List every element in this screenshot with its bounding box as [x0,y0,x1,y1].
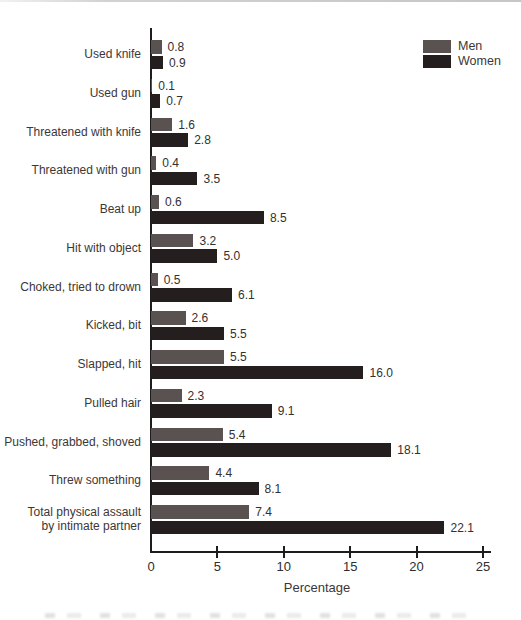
bar-men [151,466,209,480]
category-label: Threw something [0,465,141,496]
legend-item-men: Men [423,40,501,53]
bar-men [151,350,224,364]
bar-men [151,505,249,519]
x-axis-tick-label: 5 [197,559,237,574]
bar-men [151,273,158,287]
category-label: Kicked, bit [0,310,141,341]
legend-swatch-women [423,55,451,68]
bar-men [151,428,223,442]
value-label: 5.5 [230,350,247,364]
legend: Men Women [423,40,501,68]
value-label: 6.1 [238,288,255,302]
bar-women [151,521,444,535]
value-label: 1.6 [178,118,195,132]
x-axis-tick [216,546,218,558]
category-label: Hit with object [0,232,141,263]
x-axis-tick-label: 10 [264,559,304,574]
bar-men [151,40,162,54]
x-axis-line [150,551,491,553]
bar-men [151,195,159,209]
value-label: 2.8 [194,133,211,147]
bar-women [151,249,217,263]
value-label: 0.5 [164,273,181,287]
legend-label-women: Women [458,55,501,68]
category-label: Slapped, hit [0,349,141,380]
value-label: 9.1 [278,404,295,418]
x-axis-tick-label: 25 [463,559,503,574]
value-label: 3.5 [203,172,220,186]
value-label: 0.8 [168,40,185,54]
value-label: 5.4 [229,428,246,442]
value-label: 7.4 [255,505,272,519]
category-label: Used knife [0,39,141,70]
value-label: 2.6 [192,311,209,325]
bar-men [151,389,182,403]
x-axis-title: Percentage [242,580,392,595]
bar-men [151,156,156,170]
x-axis-tick [416,546,418,558]
x-axis-tick [349,546,351,558]
bar-women [151,443,391,457]
legend-swatch-men [423,40,451,53]
legend-item-women: Women [423,55,501,68]
cropped-text-artifact [45,613,475,618]
value-label: 2.3 [188,389,205,403]
bar-women [151,56,163,70]
value-label: 4.4 [215,466,232,480]
category-label: Beat up [0,194,141,225]
x-axis-tick [283,546,285,558]
value-label: 0.6 [165,195,182,209]
chart-page: Used knife0.80.9Used gun0.10.7Threatened… [0,0,521,620]
x-axis-tick-label: 15 [330,559,370,574]
value-label: 8.1 [265,482,282,496]
x-axis-tick-label: 0 [131,559,171,574]
value-label: 0.1 [158,79,175,93]
value-label: 16.0 [369,366,392,380]
bar-women [151,172,197,186]
legend-label-men: Men [458,40,482,53]
value-label: 5.5 [230,327,247,341]
bar-men [151,234,193,248]
bar-women [151,288,232,302]
x-axis-tick-label: 20 [397,559,437,574]
bar-men [151,79,152,93]
category-label: Total physical assault by intimate partn… [0,504,141,535]
value-label: 18.1 [397,443,420,457]
bar-men [151,118,172,132]
category-label: Pushed, grabbed, shoved [0,426,141,457]
plot-area: Used knife0.80.9Used gun0.10.7Threatened… [0,0,521,620]
value-label: 5.0 [223,249,240,263]
bar-women [151,327,224,341]
category-label: Choked, tried to drown [0,271,141,302]
value-label: 8.5 [270,211,287,225]
bar-women [151,366,363,380]
category-label: Used gun [0,77,141,108]
x-axis-tick [482,546,484,558]
category-label: Threatened with knife [0,116,141,147]
value-label: 0.4 [162,156,179,170]
bar-men [151,311,186,325]
bar-women [151,133,188,147]
value-label: 0.7 [166,94,183,108]
category-label: Pulled hair [0,387,141,418]
value-label: 22.1 [450,521,473,535]
bar-women [151,94,160,108]
bar-women [151,404,272,418]
value-label: 3.2 [199,234,216,248]
value-label: 0.9 [169,56,186,70]
bar-women [151,482,259,496]
category-label: Threatened with gun [0,155,141,186]
bar-women [151,211,264,225]
